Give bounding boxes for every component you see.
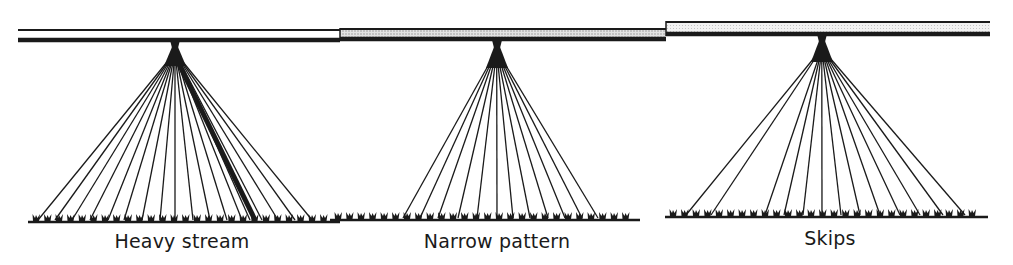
spray-boom-pipe <box>18 21 990 41</box>
boom-segment-3 <box>666 21 990 36</box>
nozzle-panel-skips <box>665 34 988 217</box>
nozzle-icon <box>486 40 508 68</box>
plant-row <box>33 214 328 221</box>
boom-segment-1 <box>18 30 340 40</box>
plant-row <box>670 209 977 216</box>
nozzle-panel-heavy-stream <box>28 40 340 222</box>
plant-row <box>335 212 630 219</box>
boom-segment-2 <box>340 28 666 41</box>
label-skips: Skips <box>804 227 855 249</box>
label-narrow-pattern: Narrow pattern <box>424 230 571 252</box>
spray-pattern-diagram <box>0 0 1013 265</box>
nozzle-icon <box>164 40 186 66</box>
heavy-stream-jet <box>178 62 255 220</box>
nozzle-panels <box>28 34 988 222</box>
nozzle-icon <box>811 34 833 62</box>
nozzle-panel-narrow-pattern <box>330 40 640 220</box>
label-heavy-stream: Heavy stream <box>114 230 249 252</box>
